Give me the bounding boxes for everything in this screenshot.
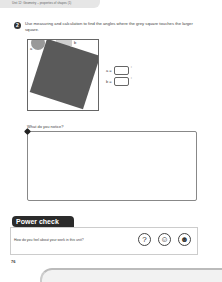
question-text: Use measuring and calculation to find th… <box>25 21 205 33</box>
answer-a-row: a = ° <box>106 66 132 75</box>
angle-a-label: a <box>30 46 32 51</box>
next-page-edge <box>40 268 222 282</box>
page-number: 76 <box>11 259 15 264</box>
answer-a-label: a = <box>106 68 112 73</box>
unit-header-band: Unit 12: Geometry – properties of shapes… <box>0 0 100 8</box>
question-number: 2 <box>14 22 21 29</box>
notice-label: What do you notice? <box>27 124 63 129</box>
degree-symbol: ° <box>131 77 132 81</box>
big-smile-face-icon[interactable]: ☻ <box>178 233 191 246</box>
angle-b-label: b <box>74 40 76 45</box>
answer-b-input[interactable] <box>114 77 129 86</box>
answer-b-row: b = ° <box>106 77 132 86</box>
notice-answer-box[interactable] <box>27 131 197 201</box>
power-check-title: Power check <box>12 216 74 227</box>
squares-diagram: a b <box>27 39 99 111</box>
unsure-face-icon[interactable]: ? <box>138 233 151 246</box>
degree-symbol: ° <box>131 66 132 70</box>
unit-title: Unit 12: Geometry – properties of shapes… <box>12 1 71 5</box>
answer-a-input[interactable] <box>114 66 129 75</box>
smile-face-icon[interactable]: ☺ <box>158 233 171 246</box>
power-check-question: How do you feel about your work in this … <box>14 238 84 242</box>
answer-b-label: b = <box>106 79 112 84</box>
